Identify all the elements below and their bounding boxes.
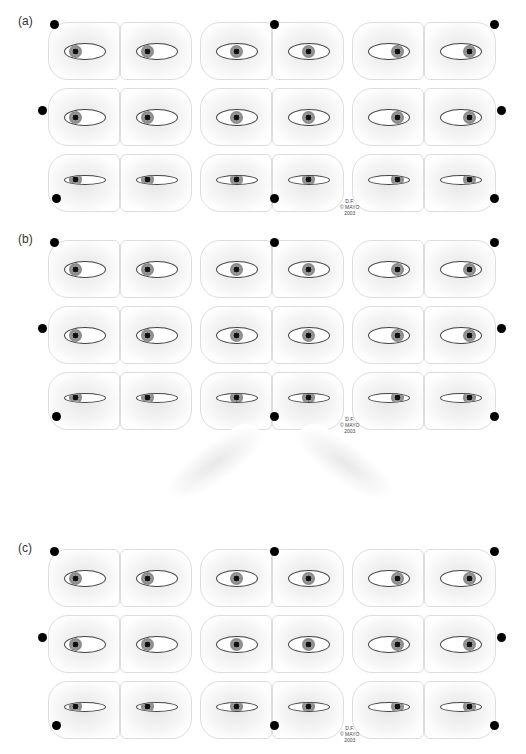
gaze-position-pair	[352, 88, 496, 144]
eye-icon	[288, 261, 330, 278]
eye-pane	[424, 372, 496, 430]
target-dot	[497, 633, 506, 642]
eye-icon	[216, 702, 258, 712]
eye-pane	[120, 88, 192, 146]
target-dot	[38, 633, 47, 642]
target-dot	[490, 547, 499, 556]
eye-icon	[440, 175, 482, 185]
eye-icon	[216, 175, 258, 185]
target-dot	[497, 324, 506, 333]
target-dot	[490, 412, 499, 421]
eye-icon	[368, 393, 410, 403]
eye-icon	[136, 261, 178, 278]
eye-icon	[368, 636, 410, 653]
eye-pane	[352, 372, 424, 430]
target-dot	[52, 194, 61, 203]
target-dot	[52, 721, 61, 730]
eye-pane	[352, 88, 424, 146]
eye-icon	[64, 109, 106, 126]
credit-text: D.F.© MAYO2003	[340, 416, 359, 434]
eye-icon	[368, 570, 410, 587]
eye-pane	[424, 615, 496, 673]
gaze-position-pair	[48, 240, 192, 296]
eye-icon	[288, 570, 330, 587]
eye-pane	[352, 615, 424, 673]
eye-icon	[440, 43, 482, 60]
gaze-position-pair	[352, 372, 496, 428]
eye-pane	[48, 154, 120, 212]
gaze-position-pair	[352, 22, 496, 78]
eye-icon	[368, 702, 410, 712]
eye-icon	[288, 175, 330, 185]
eye-pane	[424, 549, 496, 607]
eye-icon	[288, 393, 330, 403]
target-dot	[50, 238, 59, 247]
eye-pane	[352, 240, 424, 298]
eye-pane	[424, 681, 496, 739]
eye-icon	[216, 393, 258, 403]
target-dot	[50, 20, 59, 29]
eye-icon	[64, 175, 106, 185]
eye-icon	[216, 570, 258, 587]
eye-icon	[64, 636, 106, 653]
eye-icon	[64, 43, 106, 60]
eye-icon	[136, 175, 178, 185]
eye-pane	[424, 22, 496, 80]
target-dot	[52, 412, 61, 421]
eye-pane	[120, 372, 192, 430]
gaze-position-pair	[352, 615, 496, 671]
eye-pane	[352, 22, 424, 80]
eye-pane	[120, 549, 192, 607]
eye-icon	[136, 327, 178, 344]
gaze-position-pair	[48, 372, 192, 428]
gaze-position-pair	[48, 22, 192, 78]
eye-pane	[200, 22, 272, 80]
eye-pane	[200, 681, 272, 739]
target-dot	[497, 106, 506, 115]
eye-icon	[216, 109, 258, 126]
eye-pane	[120, 154, 192, 212]
panel-label: (b)	[18, 232, 33, 246]
target-dot	[490, 721, 499, 730]
eye-icon	[440, 261, 482, 278]
eye-pane	[200, 154, 272, 212]
eye-pane	[424, 88, 496, 146]
eye-pane	[200, 615, 272, 673]
eye-icon	[136, 43, 178, 60]
target-dot	[38, 324, 47, 333]
eye-icon	[136, 636, 178, 653]
gaze-position-pair	[352, 240, 496, 296]
eye-pane	[272, 240, 344, 298]
gaze-position-pair	[48, 154, 192, 210]
eye-pane	[272, 681, 344, 739]
eye-pane	[352, 549, 424, 607]
eye-icon	[64, 327, 106, 344]
target-dot	[270, 721, 279, 730]
eye-icon	[216, 327, 258, 344]
target-dot	[270, 194, 279, 203]
eye-pane	[200, 306, 272, 364]
eye-pane	[120, 615, 192, 673]
gaze-position-pair	[200, 306, 344, 362]
gaze-position-pair	[352, 549, 496, 605]
eye-icon	[440, 636, 482, 653]
eye-pane	[120, 681, 192, 739]
gaze-position-pair	[48, 615, 192, 671]
eye-pane	[272, 306, 344, 364]
target-dot	[270, 547, 279, 556]
eye-pane	[424, 240, 496, 298]
eye-pane	[272, 88, 344, 146]
eye-icon	[136, 570, 178, 587]
eye-pane	[48, 615, 120, 673]
eye-pane	[272, 22, 344, 80]
gaze-position-pair	[200, 240, 344, 296]
eye-icon	[440, 702, 482, 712]
eye-pane	[272, 154, 344, 212]
eye-pane	[352, 681, 424, 739]
eye-icon	[136, 109, 178, 126]
target-dot	[270, 20, 279, 29]
eye-pane	[120, 22, 192, 80]
eye-icon	[216, 261, 258, 278]
eye-pane	[200, 549, 272, 607]
eye-icon	[64, 261, 106, 278]
